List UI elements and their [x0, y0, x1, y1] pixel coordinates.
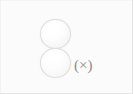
sphere-bottom-icon — [40, 48, 71, 78]
annotation-label: (×) — [74, 58, 92, 73]
sphere-top-icon — [40, 19, 71, 49]
frame-edge-right — [132, 0, 133, 94]
frame-edge-left — [0, 0, 1, 94]
figure-canvas: (×) — [0, 0, 133, 94]
sphere-stack — [40, 19, 73, 79]
frame-edge-top — [0, 0, 133, 1]
frame-edge-bottom — [0, 93, 133, 94]
